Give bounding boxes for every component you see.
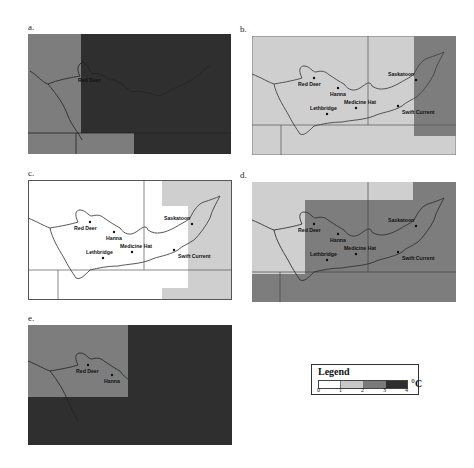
- map-panel-a: Red Deer: [28, 34, 231, 154]
- city-swift-current: Swift Current: [402, 255, 435, 261]
- city-saskatoon: Saskatoon: [164, 215, 190, 221]
- panel-d-label: d.: [240, 170, 247, 180]
- panel-c-label: c.: [28, 168, 34, 178]
- city-red-deer: Red Deer: [298, 81, 321, 87]
- city-lethbridge: Lethbridge: [86, 249, 113, 255]
- city-red-deer: Red Deer: [298, 227, 321, 233]
- city-hanna: Hanna: [330, 91, 346, 97]
- panel-e-label: e.: [28, 313, 34, 323]
- legend-tick: 0: [317, 387, 320, 393]
- legend: Legend 0 1 2 3 4 °C: [311, 364, 419, 395]
- legend-tick: 3: [383, 387, 386, 393]
- legend-ticks: 0 1 2 3 4: [316, 387, 410, 394]
- city-hanna: Hanna: [104, 378, 120, 384]
- map-panel-c: Red Deer Hanna Saskatoon Lethbridge Medi…: [28, 180, 232, 300]
- city-saskatoon: Saskatoon: [388, 71, 414, 77]
- city-medicine-hat: Medicine Hat: [120, 243, 152, 249]
- map-panel-e: Red Deer Hanna: [28, 325, 232, 445]
- map-panel-d: Red Deer Hanna Saskatoon Lethbridge Medi…: [252, 182, 456, 302]
- legend-unit: °C: [411, 378, 422, 389]
- panel-a-label: a.: [28, 22, 34, 32]
- city-saskatoon: Saskatoon: [388, 217, 414, 223]
- city-lethbridge: Lethbridge: [310, 251, 337, 257]
- svg-text:Red Deer: Red Deer: [78, 77, 101, 83]
- legend-tick: 2: [361, 387, 364, 393]
- city-labels-a: Red Deer: [78, 77, 101, 83]
- legend-title: Legend: [318, 366, 350, 377]
- city-hanna: Hanna: [330, 237, 346, 243]
- legend-tick: 1: [339, 387, 342, 393]
- city-medicine-hat: Medicine Hat: [344, 99, 376, 105]
- city-medicine-hat: Medicine Hat: [344, 245, 376, 251]
- map-panel-b: Red Deer Hanna Saskatoon Lethbridge Medi…: [252, 36, 456, 155]
- panel-b-label: b.: [240, 24, 247, 34]
- city-red-deer: Red Deer: [76, 368, 99, 374]
- city-hanna: Hanna: [106, 235, 122, 241]
- city-swift-current: Swift Current: [402, 109, 435, 115]
- legend-tick: 4: [405, 387, 408, 393]
- city-lethbridge: Lethbridge: [310, 105, 337, 111]
- city-red-deer: Red Deer: [74, 225, 97, 231]
- city-swift-current: Swift Current: [178, 253, 211, 259]
